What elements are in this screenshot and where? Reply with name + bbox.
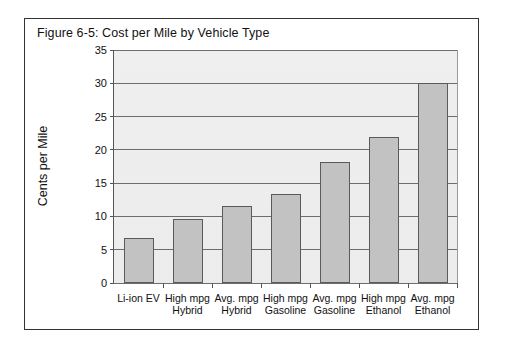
y-tick-label-0: 0 [101, 277, 107, 289]
bar[interactable] [320, 162, 350, 283]
y-axis-title: Cents per Mile [36, 86, 50, 246]
y-tick-label-5: 5 [101, 244, 107, 256]
bar[interactable] [418, 83, 448, 283]
y-tick-label-20: 20 [95, 144, 107, 156]
y-tick-label-15: 15 [95, 177, 107, 189]
y-tick-label-10: 10 [95, 210, 107, 222]
bar-slot: Avg. mpgGasoline [310, 50, 359, 283]
y-tick-label-35: 35 [95, 44, 107, 56]
bar-series: Li-ion EVHigh mpgHybridAvg. mpgHybridHig… [114, 50, 457, 283]
figure-frame: Figure 6-5: Cost per Mile by Vehicle Typ… [24, 18, 479, 330]
x-tick-mark [261, 283, 262, 288]
x-tick-mark [457, 283, 458, 288]
x-tick-mark [310, 283, 311, 288]
x-tick-label: Avg. mpgEthanol [396, 292, 470, 316]
bar[interactable] [173, 219, 203, 283]
bar[interactable] [222, 206, 252, 283]
bar-slot: Avg. mpgHybrid [212, 50, 261, 283]
x-tick-mark [212, 283, 213, 288]
bar-slot: High mpgGasoline [261, 50, 310, 283]
x-tick-label-line: Avg. mpg [396, 292, 470, 304]
bar[interactable] [124, 238, 154, 283]
bar-slot: Avg. mpgEthanol [408, 50, 457, 283]
bar[interactable] [369, 137, 399, 283]
screenshot-page: Figure 6-5: Cost per Mile by Vehicle Typ… [0, 0, 505, 350]
x-tick-mark [359, 283, 360, 288]
bar-chart: Cents per Mile 05101520253035 Li-ion EVH… [25, 19, 480, 331]
bar-slot: High mpgEthanol [359, 50, 408, 283]
plot-area: 05101520253035 Li-ion EVHigh mpgHybridAv… [113, 50, 457, 284]
x-tick-label-line: Ethanol [396, 304, 470, 316]
bar-slot: Li-ion EV [114, 50, 163, 283]
bar-slot: High mpgHybrid [163, 50, 212, 283]
x-tick-mark [408, 283, 409, 288]
bar[interactable] [271, 194, 301, 283]
y-tick-label-30: 30 [95, 77, 107, 89]
y-tick-label-25: 25 [95, 111, 107, 123]
plot-right-edge [457, 50, 458, 283]
x-tick-mark [163, 283, 164, 288]
